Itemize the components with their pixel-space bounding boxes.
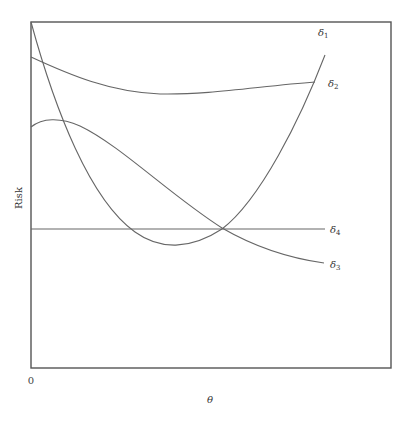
risk-chart: δ1 δ2 δ4 δ3 Risk θ 0 xyxy=(0,0,410,425)
series-delta2-curve xyxy=(31,57,315,94)
label-delta1: δ1 xyxy=(318,27,329,40)
series-delta1-curve xyxy=(31,22,325,245)
label-delta3: δ3 xyxy=(330,259,341,272)
label-delta2: δ2 xyxy=(328,78,339,91)
x-axis-label: θ xyxy=(207,394,213,405)
series-delta3-curve xyxy=(31,120,324,263)
label-delta4: δ4 xyxy=(330,224,341,237)
plot-frame xyxy=(31,22,391,368)
y-axis-label: Risk xyxy=(13,186,24,209)
x-origin-tick-label: 0 xyxy=(28,375,34,386)
